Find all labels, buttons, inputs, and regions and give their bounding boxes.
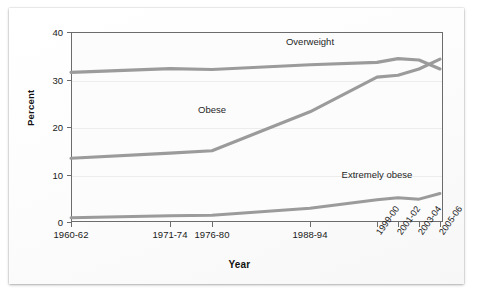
series-lines [0, 0, 479, 297]
line-overweight [71, 59, 440, 73]
figure-page: Percent 010203040 1960-621971-741976-801… [0, 0, 479, 297]
chart-figure: Percent 010203040 1960-621971-741976-801… [0, 0, 479, 297]
series-label-overweight: Overweight [286, 36, 334, 47]
series-label-obese: Obese [198, 104, 226, 115]
line-obese [71, 59, 440, 158]
series-label-extremely-obese: Extremely obese [342, 169, 413, 180]
line-extremely-obese [71, 194, 440, 218]
